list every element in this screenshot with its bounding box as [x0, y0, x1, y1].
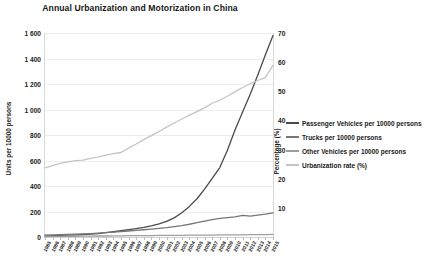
chart-legend: Passenger Vehicles per 10000 personsTruc…: [286, 116, 436, 172]
legend-item[interactable]: Urbanization rate (%): [286, 158, 436, 172]
y-axis-left-tick-label: 1 400: [3, 55, 45, 62]
legend-item[interactable]: Other Vehicles per 10000 persons: [286, 144, 436, 158]
legend-color-swatch-icon: [286, 150, 299, 152]
y-axis-right-tick-label: 50: [274, 88, 304, 95]
y-axis-left-tick-label: 200: [3, 208, 45, 215]
series-line: [45, 36, 273, 236]
y-axis-right-line: [273, 33, 274, 238]
y-axis-left-title: Units per 10000 persons: [5, 84, 12, 194]
series-lines: [45, 33, 273, 237]
legend-color-swatch-icon: [286, 164, 299, 166]
legend-item-label: Trucks per 10000 persons: [302, 134, 382, 141]
y-axis-right-tick-label: 60: [274, 59, 304, 66]
chart-container: Annual Urbanization and Motorization in …: [0, 0, 437, 273]
x-axis-labels: 1985198619871988198919901991199219931994…: [45, 240, 273, 273]
legend-item-label: Urbanization rate (%): [302, 162, 367, 169]
legend-item-label: Other Vehicles per 10000 persons: [302, 148, 406, 155]
y-axis-left-tick-label: 1 600: [3, 30, 45, 37]
series-line: [45, 65, 273, 168]
y-axis-right-tick-label: 70: [274, 30, 304, 37]
legend-item[interactable]: Passenger Vehicles per 10000 persons: [286, 116, 436, 130]
legend-color-swatch-icon: [286, 122, 299, 124]
y-axis-right-tick-label: 10: [274, 204, 304, 211]
plot-area: [45, 33, 273, 237]
legend-color-swatch-icon: [286, 136, 299, 138]
legend-item[interactable]: Trucks per 10000 persons: [286, 130, 436, 144]
legend-item-label: Passenger Vehicles per 10000 persons: [302, 120, 422, 127]
y-axis-left-tick-label: 0: [3, 234, 45, 241]
